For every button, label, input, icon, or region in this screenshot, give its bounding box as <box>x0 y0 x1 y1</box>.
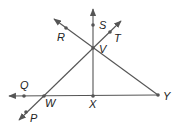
label-P: P <box>30 112 38 124</box>
point-S <box>91 23 95 27</box>
label-Y: Y <box>163 90 171 102</box>
label-T: T <box>114 32 122 44</box>
line-WY <box>9 95 158 96</box>
point-Q <box>22 94 26 98</box>
label-S: S <box>99 19 107 31</box>
point-P <box>24 110 28 114</box>
label-W: W <box>45 97 57 109</box>
labels-layer: S R T V Q W X Y P <box>20 19 171 124</box>
point-Y <box>156 93 160 97</box>
point-T <box>108 30 112 34</box>
label-R: R <box>57 31 65 43</box>
label-X: X <box>88 98 97 110</box>
point-V <box>91 46 95 50</box>
label-Q: Q <box>20 79 29 91</box>
line-PT <box>19 21 121 120</box>
point-R <box>64 26 68 30</box>
label-V: V <box>99 43 108 55</box>
geometry-diagram: S R T V Q W X Y P <box>0 0 175 130</box>
